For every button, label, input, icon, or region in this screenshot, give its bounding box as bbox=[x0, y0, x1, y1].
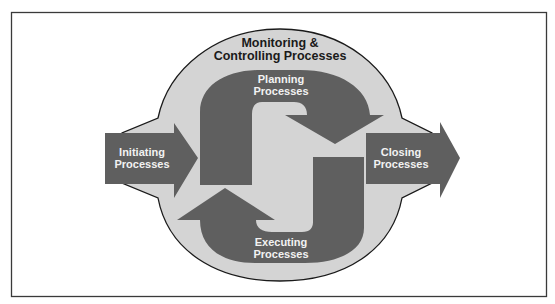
closing-label-line1: Closing bbox=[381, 146, 421, 158]
closing-label-line2: Processes bbox=[373, 158, 428, 170]
executing-label-line1: Executing bbox=[255, 236, 308, 248]
initiating-label-line1: Initiating bbox=[119, 146, 165, 158]
monitoring-label-line2: Controlling Processes bbox=[214, 49, 347, 63]
monitoring-label-line1: Monitoring & bbox=[241, 36, 318, 50]
planning-label-line1: Planning bbox=[258, 73, 304, 85]
initiating-label-line2: Processes bbox=[114, 158, 169, 170]
planning-label-line2: Processes bbox=[253, 85, 308, 97]
process-groups-diagram: Monitoring & Controlling Processes Plann… bbox=[0, 0, 555, 304]
executing-label-line2: Processes bbox=[253, 248, 308, 260]
